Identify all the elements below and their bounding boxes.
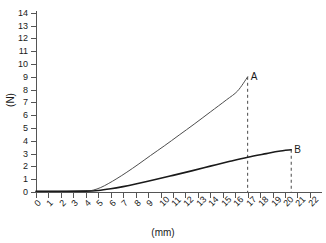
force-displacement-chart: 01234567891011121314 0123456789101112131… xyxy=(0,0,326,243)
series-line-A xyxy=(36,77,248,192)
data-series xyxy=(36,77,291,192)
plot-area xyxy=(0,0,326,243)
series-line-B xyxy=(36,150,291,191)
series-label-B: B xyxy=(294,145,301,155)
series-label-A: A xyxy=(251,72,258,82)
annotation-guides xyxy=(248,77,292,192)
